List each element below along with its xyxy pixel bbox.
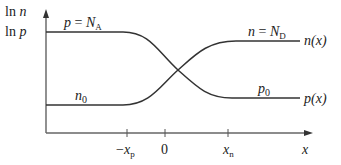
tick-label-zero: 0 [161,142,168,157]
label-p-equals-NA: p = NA [63,15,102,32]
label-n-of-x: n(x) [304,33,327,49]
x-axis-label: x [301,142,309,157]
label-n0: n0 [75,88,87,105]
label-p0: p0 [257,81,270,98]
x-axis-arrow-icon [304,130,313,136]
tick-label-neg-xp: −xp [116,142,135,159]
y-axis-label-ln-p: ln p [5,24,26,39]
y-axis-arrow-icon [43,9,49,18]
tick-label-xn: xn [222,142,234,159]
label-n-equals-ND: n = ND [248,24,286,41]
label-p-of-x: p(x) [303,91,327,107]
carrier-concentration-diagram: ln n ln p p = NA n0 n = ND p0 n(x) p(x) … [0,0,341,165]
y-axis-label-ln-n: ln n [5,4,26,19]
